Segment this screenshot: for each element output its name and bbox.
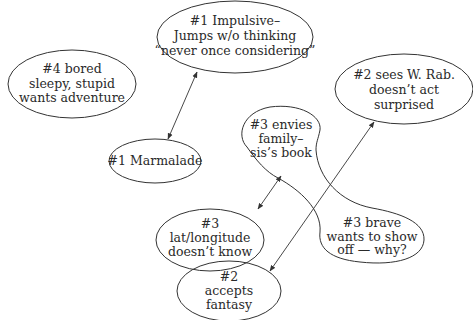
node-envies-line-3: sis’s book <box>250 145 312 160</box>
node-latitude-line-2: lat/longitude <box>170 230 251 245</box>
node-latitude[interactable]: #3 lat/longitude doesn’t know <box>156 209 264 271</box>
node-impulsive-line-1: #1 Impulsive– <box>190 13 280 28</box>
node-impulsive[interactable]: #1 Impulsive– Jumps w/o thinking “never … <box>155 1 316 73</box>
node-latitude-line-1: #3 <box>201 216 219 231</box>
edge-impulsive-marmalade <box>168 72 197 139</box>
concept-map-canvas: #1 Impulsive– Jumps w/o thinking “never … <box>0 0 473 320</box>
node-bored-line-1: #4 bored <box>42 61 101 76</box>
node-accepts[interactable]: #2 accepts fantasy <box>177 261 281 320</box>
node-marmalade[interactable]: #1 Marmalade <box>108 139 203 183</box>
node-impulsive-line-2: Jumps w/o thinking <box>172 28 296 43</box>
node-sees[interactable]: #2 sees W. Rab. doesn’t act surprised <box>335 54 473 124</box>
node-brave-line-3: off — why? <box>337 242 407 257</box>
node-accepts-line-2: accepts <box>205 283 253 298</box>
edge-envies-latitude <box>258 176 281 209</box>
node-sees-line-2: doesn’t act <box>369 82 439 97</box>
node-bored-line-2: sleepy, stupid <box>29 76 115 91</box>
node-sees-line-3: surprised <box>374 97 434 112</box>
node-latitude-line-3: doesn’t know <box>168 244 253 259</box>
node-envies-brave-blob[interactable]: #3 envies family– sis’s book #3 brave wa… <box>242 106 424 263</box>
node-accepts-line-3: fantasy <box>206 297 253 312</box>
node-sees-line-1: #2 sees W. Rab. <box>353 67 455 82</box>
node-bored[interactable]: #4 bored sleepy, stupid wants adventure <box>8 50 136 118</box>
node-bored-line-3: wants adventure <box>19 90 125 105</box>
node-envies-line-2: family– <box>258 131 303 146</box>
node-accepts-line-1: #2 <box>220 269 238 284</box>
node-impulsive-line-3: “never once considering” <box>155 43 316 58</box>
node-marmalade-line-1: #1 Marmalade <box>108 153 203 168</box>
node-brave-line-1: #3 brave <box>343 215 401 230</box>
node-envies-line-1: #3 envies <box>250 117 313 132</box>
